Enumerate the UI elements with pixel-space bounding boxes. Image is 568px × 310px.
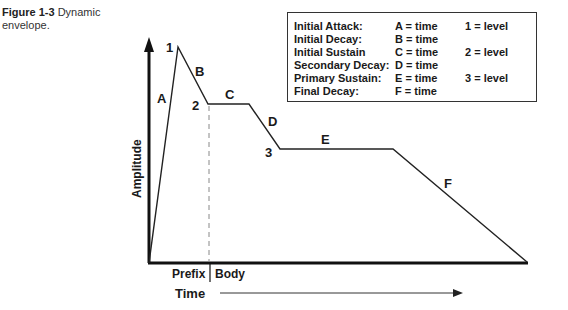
level-3-label: 3 (265, 145, 272, 160)
segment-C-label: C (225, 87, 235, 102)
prefix-label: Prefix (172, 267, 206, 281)
body-label: Body (215, 267, 245, 281)
segment-D-label: D (268, 114, 277, 129)
level-2-label: 2 (192, 98, 199, 113)
envelope-diagram: 1 2 3 A B C D E F Amplitude Prefix Body … (0, 0, 568, 310)
y-axis-arrow-icon (144, 37, 154, 52)
segment-B-label: B (195, 64, 204, 79)
x-axis-label: Time (175, 286, 205, 301)
segment-F-label: F (444, 176, 452, 191)
segment-A-label: A (157, 91, 167, 106)
level-1-label: 1 (166, 40, 173, 55)
y-axis-label: Amplitude (130, 139, 144, 198)
time-arrow-icon (453, 289, 463, 297)
envelope-curve (149, 47, 527, 263)
segment-E-label: E (321, 132, 330, 147)
